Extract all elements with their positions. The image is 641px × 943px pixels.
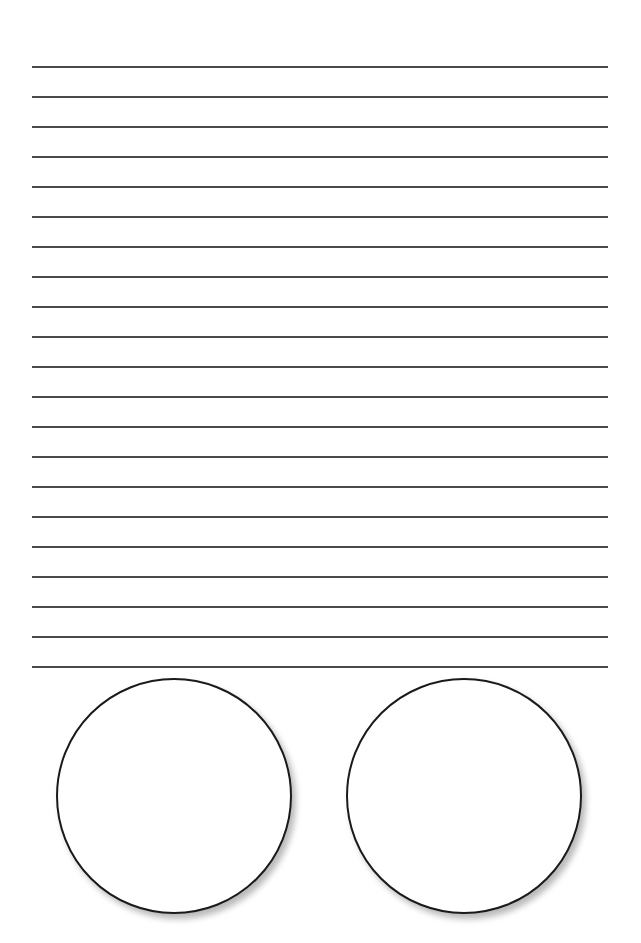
ruled-line [32,366,608,368]
ruled-line [32,336,608,338]
ruled-line [32,156,608,158]
ruled-line [32,306,608,308]
ruled-line [32,276,608,278]
left-circle [56,678,292,914]
ruled-line [32,606,608,608]
ruled-line [32,486,608,488]
ruled-line [32,216,608,218]
lined-worksheet-page [0,0,641,943]
ruled-line [32,516,608,518]
ruled-line [32,96,608,98]
ruled-line [32,126,608,128]
ruled-line [32,426,608,428]
right-circle [346,678,582,914]
ruled-line [32,636,608,638]
ruled-line [32,186,608,188]
ruled-line [32,576,608,578]
ruled-line [32,66,608,68]
ruled-line [32,246,608,248]
ruled-line [32,396,608,398]
ruled-line [32,666,608,668]
ruled-line [32,546,608,548]
ruled-line [32,456,608,458]
ruled-lines [0,0,641,700]
